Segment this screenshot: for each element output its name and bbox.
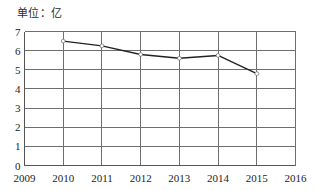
x-tick-label-2011: 2011 (91, 172, 113, 184)
chart-axes (25, 32, 296, 166)
vertical-gridlines (63, 32, 295, 166)
x-axis-tick-labels: 20092010201120122013201420152016 (14, 172, 308, 184)
y-axis-tick-labels: 01234567 (15, 26, 21, 172)
data-point-2010 (61, 39, 65, 43)
x-tick-label-2009: 2009 (14, 172, 37, 184)
x-tick-label-2013: 2013 (168, 172, 191, 184)
y-tick-label-5: 5 (15, 64, 21, 76)
chart-screenshot: 单位：亿 01234567 20092010201120122013201420… (0, 0, 316, 190)
data-point-2011 (100, 44, 104, 48)
line-chart-plot: 01234567 2009201020112012201320142015201… (0, 0, 316, 190)
data-point-2014 (216, 54, 220, 58)
y-tick-label-0: 0 (15, 160, 21, 172)
x-tick-label-2015: 2015 (246, 172, 269, 184)
series-line-0 (63, 41, 257, 74)
y-tick-label-6: 6 (15, 45, 21, 57)
x-tick-label-2012: 2012 (130, 172, 152, 184)
horizontal-gridlines (25, 32, 296, 147)
x-tick-label-2010: 2010 (52, 172, 75, 184)
data-point-2015 (255, 72, 259, 76)
x-tick-label-2014: 2014 (207, 172, 230, 184)
y-tick-label-2: 2 (15, 121, 21, 133)
x-tick-label-2016: 2016 (285, 172, 308, 184)
y-tick-label-7: 7 (15, 26, 21, 38)
data-series (63, 41, 257, 74)
data-point-2013 (177, 56, 181, 60)
y-tick-label-1: 1 (15, 140, 21, 152)
y-tick-label-4: 4 (15, 83, 21, 95)
y-tick-label-3: 3 (15, 102, 21, 114)
data-point-2012 (139, 53, 143, 57)
